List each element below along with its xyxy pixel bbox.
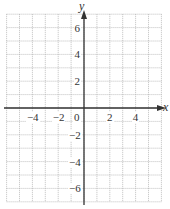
coordinate-grid	[0, 0, 170, 209]
y-axis-label: y	[79, 0, 84, 12]
x-tick-label: 0	[73, 112, 81, 123]
y-tick-label: 2	[74, 76, 82, 87]
x-tick-label: −2	[52, 112, 66, 123]
x-axis-label: x	[163, 101, 168, 113]
axes	[4, 10, 166, 205]
y-tick-label: −2	[68, 130, 82, 141]
x-tick-label: 4	[132, 112, 140, 123]
y-tick-label: −6	[68, 183, 82, 194]
x-tick-label: 2	[106, 112, 114, 123]
x-tick-label: −4	[26, 112, 40, 123]
y-tick-label: 6	[74, 23, 82, 34]
y-tick-label: 4	[74, 49, 82, 60]
y-tick-label: −4	[68, 157, 82, 168]
